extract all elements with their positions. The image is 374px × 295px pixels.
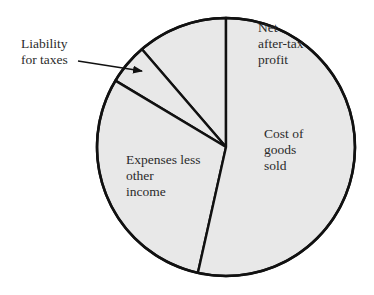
label-liability-for-taxes: Liability for taxes <box>21 36 68 68</box>
label-line: profit <box>258 52 318 68</box>
label-line: for taxes <box>21 52 68 68</box>
label-cost-of-goods-sold: Cost of goods sold <box>264 126 303 174</box>
label-expenses-less-other-income: Expenses less other income <box>126 152 201 200</box>
label-net-after-tax-profit: Net after-tax profit <box>258 20 318 68</box>
label-line: Expenses less <box>126 152 201 168</box>
label-line: Liability <box>21 36 68 52</box>
label-line: sold <box>264 158 303 174</box>
label-line: other <box>126 168 201 184</box>
label-line: after-tax <box>258 36 318 52</box>
label-line: goods <box>264 142 303 158</box>
label-line: Net <box>258 20 318 36</box>
label-line: income <box>126 184 201 200</box>
label-line: Cost of <box>264 126 303 142</box>
